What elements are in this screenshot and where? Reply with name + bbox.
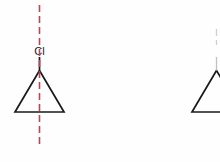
structure-drawing: Cl [0, 0, 220, 162]
molecule-chlorocyclopropane-right [192, 57, 220, 112]
cyclopropane-ring-right [192, 71, 220, 113]
molecule-diagram-canvas: Cl [0, 0, 220, 162]
